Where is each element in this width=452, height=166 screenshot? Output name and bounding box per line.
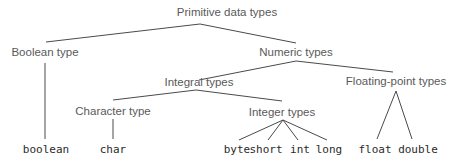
leaf-char: char	[100, 144, 127, 155]
leaf-float: float	[358, 144, 391, 155]
node-character-type: Character type	[75, 106, 150, 118]
tree-edge	[239, 120, 283, 140]
primitive-types-tree-diagram: Primitive data types Boolean type Numeri…	[0, 0, 452, 166]
tree-edge	[396, 91, 412, 139]
leaf-short: short	[249, 144, 282, 155]
tree-edge	[283, 120, 327, 140]
tree-edge	[196, 90, 282, 101]
leaf-int: int	[290, 144, 310, 155]
tree-edge	[377, 91, 396, 139]
node-integral-types: Integral types	[164, 77, 233, 89]
tree-edge	[46, 24, 200, 42]
node-integer-types: Integer types	[249, 107, 315, 119]
leaf-boolean: boolean	[23, 144, 69, 155]
tree-edge	[200, 24, 296, 43]
node-floating-point-types: Floating-point types	[346, 76, 446, 88]
node-primitive-data-types: Primitive data types	[177, 7, 277, 19]
leaf-byte: byte	[224, 144, 251, 155]
tree-edge	[296, 61, 393, 72]
leaf-double: double	[398, 144, 438, 155]
node-numeric-types: Numeric types	[259, 47, 333, 59]
tree-edge	[113, 90, 196, 100]
node-boolean-type: Boolean type	[11, 47, 78, 59]
leaf-long: long	[316, 144, 343, 155]
